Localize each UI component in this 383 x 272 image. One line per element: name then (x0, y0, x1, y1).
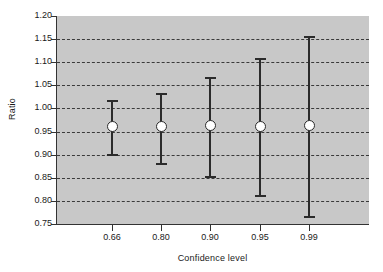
errorbar-cap-upper (304, 36, 315, 38)
data-point-marker (156, 121, 167, 132)
x-axis-tick-mark (210, 225, 211, 231)
chart-figure: Ratio 1.201.151.101.051.000.950.900.850.… (0, 0, 383, 272)
y-axis-tick-label: 0.80 (18, 196, 52, 205)
errorbar-cap-upper (255, 58, 266, 60)
errorbar-cap-lower (304, 216, 315, 218)
data-point-marker (107, 121, 118, 132)
y-axis-tick-mark (51, 108, 57, 109)
errorbar-cap-upper (205, 77, 216, 79)
gridline (57, 178, 369, 179)
y-axis-tick-label: 1.20 (18, 11, 52, 20)
y-axis-tick-mark (51, 155, 57, 156)
x-axis-tick-label: 0.99 (287, 233, 331, 242)
errorbar-cap-lower (205, 176, 216, 178)
y-axis-tick-label: 0.95 (18, 127, 52, 136)
plot-area (57, 16, 369, 224)
gridline (57, 132, 369, 133)
y-axis-tick-mark (51, 201, 57, 202)
gridline (57, 155, 369, 156)
x-axis-tick-mark (161, 225, 162, 231)
y-axis-tick-label: 1.05 (18, 80, 52, 89)
errorbar-cap-upper (156, 93, 167, 95)
x-axis-tick-label: 0.80 (139, 233, 183, 242)
errorbar-cap-lower (156, 163, 167, 165)
data-point-marker (304, 120, 315, 131)
x-axis-tick-mark (309, 225, 310, 231)
y-axis-tick-mark (51, 132, 57, 133)
y-axis-tick-mark (51, 178, 57, 179)
y-axis-tick-label: 1.10 (18, 57, 52, 66)
x-axis-tick-label: 0.95 (238, 233, 282, 242)
gridline (57, 62, 369, 63)
data-point-marker (205, 120, 216, 131)
y-axis-tick-mark (51, 16, 57, 17)
y-axis-tick-label: 1.00 (18, 103, 52, 112)
data-point-marker (255, 121, 266, 132)
errorbar-cap-lower (255, 195, 266, 197)
errorbar-cap-lower (107, 154, 118, 156)
gridline (57, 108, 369, 109)
x-axis-tick-mark (260, 225, 261, 231)
y-axis-tick-label: 0.75 (18, 219, 52, 228)
y-axis-tick-mark (51, 39, 57, 40)
y-axis-tick-label: 0.90 (18, 150, 52, 159)
y-axis-tick-label: 0.85 (18, 173, 52, 182)
y-axis-tick-labels: 1.201.151.101.051.000.950.900.850.800.75 (12, 0, 52, 272)
x-axis-tick-label: 0.90 (188, 233, 232, 242)
gridline (57, 39, 369, 40)
gridline (57, 85, 369, 86)
x-axis-title: Confidence level (56, 253, 369, 263)
x-axis-tick-mark (112, 225, 113, 231)
gridline (57, 201, 369, 202)
errorbar-cap-upper (107, 100, 118, 102)
x-axis-line (56, 224, 369, 225)
y-axis-tick-label: 1.15 (18, 34, 52, 43)
x-axis-tick-label: 0.66 (90, 233, 134, 242)
y-axis-tick-mark (51, 224, 57, 225)
y-axis-tick-mark (51, 85, 57, 86)
y-axis-tick-mark (51, 62, 57, 63)
